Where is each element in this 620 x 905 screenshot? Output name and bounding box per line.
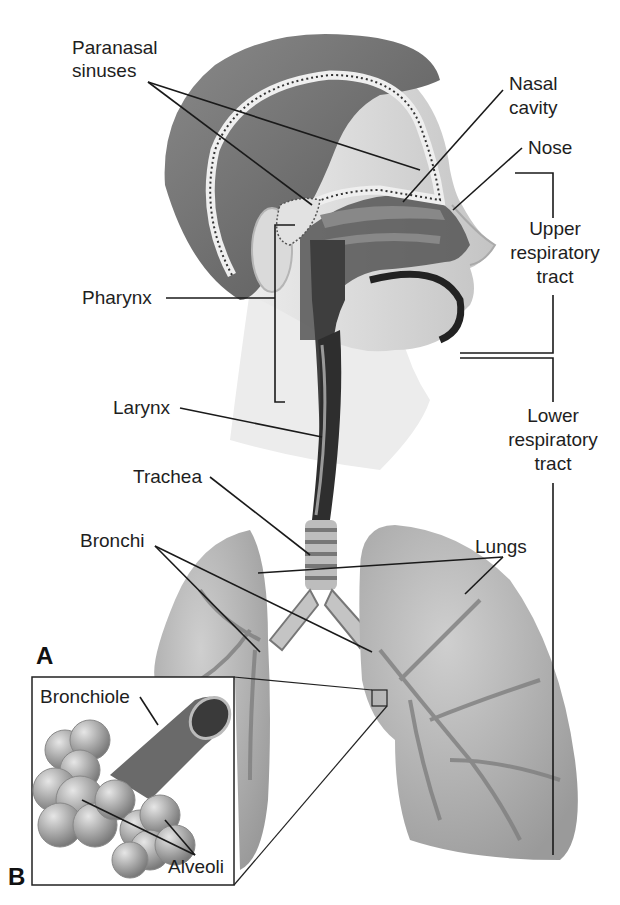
label-upper-tract-line2: respiratory: [500, 242, 610, 264]
label-upper-tract-line3: tract: [500, 266, 610, 288]
label-alveoli: Alveoli: [168, 856, 224, 878]
label-bronchiole: Bronchiole: [40, 686, 130, 708]
label-nasal-cavity-line2: cavity: [509, 97, 558, 119]
label-nose: Nose: [528, 137, 572, 159]
label-larynx: Larynx: [113, 397, 170, 419]
left-lung: [359, 525, 578, 860]
label-nasal-cavity-line1: Nasal: [509, 73, 558, 95]
label-upper-tract-line1: Upper: [500, 218, 610, 240]
label-lower-tract-line1: Lower: [498, 405, 608, 427]
label-paranasal-sinuses-line1: Paranasal: [72, 37, 158, 59]
panel-label-b: B: [8, 863, 25, 891]
label-paranasal-sinuses-line2: sinuses: [72, 60, 136, 82]
label-trachea: Trachea: [133, 466, 202, 488]
label-lungs: Lungs: [475, 536, 527, 558]
alveoli-inset: [32, 677, 238, 885]
label-lower-tract-line2: respiratory: [498, 429, 608, 451]
label-bronchi: Bronchi: [80, 530, 144, 552]
label-lower-tract-line3: tract: [498, 453, 608, 475]
label-pharynx: Pharynx: [82, 287, 152, 309]
panel-label-a: A: [36, 642, 53, 670]
